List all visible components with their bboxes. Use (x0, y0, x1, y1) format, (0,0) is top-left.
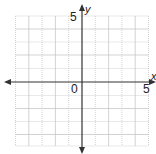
y-tick-label-5: 5 (70, 10, 77, 24)
y-axis-down-arrow-icon (79, 147, 85, 154)
x-axis-label: x (150, 70, 156, 82)
x-tick-label-5: 5 (143, 82, 150, 96)
coordinate-plane: y 5 0 5 x (0, 0, 156, 154)
y-axis-label: y (84, 3, 92, 15)
origin-label: 0 (71, 82, 78, 96)
x-axis-left-arrow-icon (4, 79, 11, 85)
